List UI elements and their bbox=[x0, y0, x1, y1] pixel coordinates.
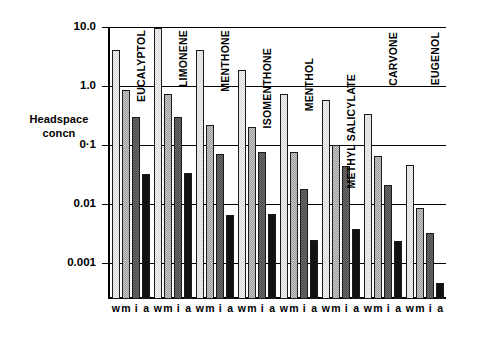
bar-m bbox=[332, 145, 340, 299]
x-tick-group: wmia bbox=[404, 302, 446, 324]
category-label-limonene: LIMONENE bbox=[177, 30, 189, 87]
bar-w bbox=[112, 50, 120, 299]
bar-i bbox=[258, 152, 266, 299]
x-tick-label-i: i bbox=[215, 302, 225, 324]
y-tick-label: 1.0 bbox=[0, 79, 108, 91]
x-tick-group: wmia bbox=[236, 302, 278, 324]
category-label-menthone: MENTHONE bbox=[219, 30, 231, 92]
x-tick-label-w: w bbox=[153, 302, 163, 324]
x-tick-label-i: i bbox=[131, 302, 141, 324]
x-tick-group: wmia bbox=[320, 302, 362, 324]
x-tick-label-i: i bbox=[425, 302, 435, 324]
bar-m bbox=[374, 156, 382, 299]
headspace-concentration-bar-chart: Headspace concn 10.01.00·10.010.001 EUCA… bbox=[0, 0, 480, 346]
x-tick-label-m: m bbox=[415, 302, 425, 324]
x-tick-label-w: w bbox=[363, 302, 373, 324]
y-tick-label: 0.01 bbox=[0, 197, 108, 209]
x-tick-label-w: w bbox=[237, 302, 247, 324]
category-label-isomenthone: ISOMENTHONE bbox=[261, 48, 273, 128]
bar-m bbox=[206, 125, 214, 299]
bar-a bbox=[394, 241, 402, 299]
category-label-methyl-salicylate: METHYL SALICYLATE bbox=[345, 74, 357, 188]
bar-a bbox=[310, 240, 318, 299]
x-tick-label-m: m bbox=[289, 302, 299, 324]
x-tick-label-w: w bbox=[321, 302, 331, 324]
x-tick-label-w: w bbox=[405, 302, 415, 324]
x-tick-label-i: i bbox=[173, 302, 183, 324]
bar-w bbox=[238, 70, 246, 299]
bar-m bbox=[164, 94, 172, 299]
x-tick-label-a: a bbox=[267, 302, 277, 324]
x-tick-label-a: a bbox=[225, 302, 235, 324]
category-label-carvone: CARVONE bbox=[387, 32, 399, 86]
bar-m bbox=[248, 127, 256, 299]
bar-a bbox=[184, 173, 192, 299]
x-tick-label-m: m bbox=[121, 302, 131, 324]
bar-i bbox=[132, 117, 140, 299]
bar-i bbox=[426, 233, 434, 299]
y-tick-label: 10.0 bbox=[0, 20, 108, 32]
x-tick-label-m: m bbox=[247, 302, 257, 324]
y-tick-label: 0·1 bbox=[0, 138, 108, 150]
bar-w bbox=[364, 114, 372, 299]
x-tick-label-w: w bbox=[111, 302, 121, 324]
bar-i bbox=[216, 154, 224, 299]
x-tick-label-a: a bbox=[351, 302, 361, 324]
bar-m bbox=[290, 152, 298, 299]
x-tick-label-i: i bbox=[257, 302, 267, 324]
y-tick-label: 0.001 bbox=[0, 256, 108, 268]
bar-i bbox=[300, 189, 308, 299]
bar-a bbox=[226, 215, 234, 299]
bar-w bbox=[322, 100, 330, 299]
bar-w bbox=[196, 50, 204, 299]
x-tick-label-i: i bbox=[341, 302, 351, 324]
x-tick-group: wmia bbox=[110, 302, 152, 324]
x-tick-group: wmia bbox=[362, 302, 404, 324]
x-tick-group: wmia bbox=[278, 302, 320, 324]
bar-w bbox=[280, 94, 288, 299]
x-tick-label-i: i bbox=[299, 302, 309, 324]
x-tick-label-w: w bbox=[195, 302, 205, 324]
bar-i bbox=[174, 117, 182, 299]
bar-a bbox=[352, 229, 360, 299]
x-tick-group: wmia bbox=[194, 302, 236, 324]
x-tick-group: wmia bbox=[152, 302, 194, 324]
category-label-menthol: MENTHOL bbox=[303, 58, 315, 111]
bar-i bbox=[384, 185, 392, 299]
x-tick-label-a: a bbox=[141, 302, 151, 324]
x-tick-label-m: m bbox=[205, 302, 215, 324]
bar-a bbox=[142, 174, 150, 299]
x-tick-label-m: m bbox=[163, 302, 173, 324]
bar-w bbox=[406, 165, 414, 299]
x-axis-labels: wmiawmiawmiawmiawmiawmiawmiawmia bbox=[110, 302, 446, 324]
bar-a bbox=[268, 214, 276, 299]
x-tick-label-a: a bbox=[183, 302, 193, 324]
bar-w bbox=[154, 28, 162, 299]
x-tick-label-w: w bbox=[279, 302, 289, 324]
bar-a bbox=[436, 283, 444, 299]
x-tick-label-a: a bbox=[309, 302, 319, 324]
x-tick-label-m: m bbox=[373, 302, 383, 324]
category-label-eugenol: EUGENOL bbox=[429, 32, 441, 85]
bar-m bbox=[122, 90, 130, 299]
category-label-eucalyptol: EUCALYPTOL bbox=[135, 30, 147, 102]
x-tick-label-a: a bbox=[393, 302, 403, 324]
x-tick-label-m: m bbox=[331, 302, 341, 324]
x-tick-label-i: i bbox=[383, 302, 393, 324]
x-tick-label-a: a bbox=[435, 302, 445, 324]
bar-m bbox=[416, 208, 424, 299]
